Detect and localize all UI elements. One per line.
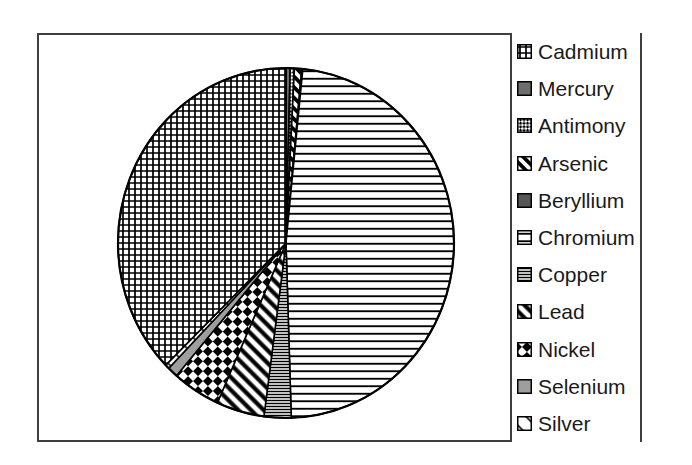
legend-item-copper: Copper xyxy=(512,256,657,293)
legend-swatch-fine-diamond-check xyxy=(517,118,532,133)
legend-label: Copper xyxy=(538,264,607,285)
legend-swatch-dense-horizontal xyxy=(517,267,532,282)
legend-label: Arsenic xyxy=(538,153,608,174)
legend-item-antimony: Antimony xyxy=(512,107,657,144)
legend-swatch-sparse-horizontal xyxy=(517,230,532,245)
legend-swatch-thick-diagonal xyxy=(517,156,532,171)
legend-label: Antimony xyxy=(538,115,626,136)
legend-item-silver: Silver xyxy=(512,405,657,442)
legend-swatch-solid-gray xyxy=(517,81,532,96)
legend-item-beryllium: Beryllium xyxy=(512,182,657,219)
legend-swatch-crosshatch-grid xyxy=(517,44,532,59)
legend-swatch-solid-dark-gray xyxy=(517,193,532,208)
legend-item-lead: Lead xyxy=(512,293,657,330)
legend-item-arsenic: Arsenic xyxy=(512,145,657,182)
legend-swatch-diamond-check xyxy=(517,342,532,357)
legend-right-divider xyxy=(640,33,642,442)
legend-label: Lead xyxy=(538,301,585,322)
legend-label: Nickel xyxy=(538,339,595,360)
legend-item-nickel: Nickel xyxy=(512,331,657,368)
legend-label: Silver xyxy=(538,413,591,434)
legend-item-selenium: Selenium xyxy=(512,368,657,405)
legend-label: Beryllium xyxy=(538,190,624,211)
legend-item-cadmium: Cadmium xyxy=(512,33,657,70)
legend-swatch-wide-diagonal xyxy=(517,304,532,319)
legend-item-chromium: Chromium xyxy=(512,219,657,256)
legend: CadmiumMercuryAntimonyArsenicBerylliumCh… xyxy=(510,33,657,442)
legend-swatch-sparse-thin-diagonal xyxy=(517,416,532,431)
legend-item-mercury: Mercury xyxy=(512,70,657,107)
legend-swatch-solid-light-gray xyxy=(517,379,532,394)
legend-label: Chromium xyxy=(538,227,635,248)
legend-label: Selenium xyxy=(538,376,626,397)
legend-label: Cadmium xyxy=(538,41,628,62)
legend-label: Mercury xyxy=(538,78,614,99)
